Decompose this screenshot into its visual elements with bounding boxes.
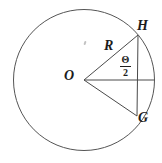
- angle-fraction-numerator: Θ: [120, 55, 131, 67]
- angle-fraction-label: Θ 2: [118, 55, 133, 78]
- radius-label: R: [104, 39, 113, 53]
- center-point-label: O: [64, 69, 74, 83]
- chord-line-HG: [137, 35, 138, 116]
- point-H-label: H: [137, 19, 148, 33]
- point-G-label: G: [138, 111, 148, 125]
- circle-angle-diagram: O H G R Θ 2: [0, 0, 162, 163]
- angle-fraction-denominator: 2: [118, 67, 133, 78]
- radius-line-OG: [84, 80, 137, 116]
